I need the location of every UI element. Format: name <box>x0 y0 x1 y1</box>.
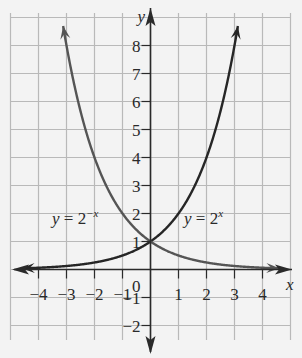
y-tick-label: 3 <box>132 177 141 196</box>
x-tick-label: 4 <box>258 285 267 304</box>
curve-2-pow-neg-x <box>63 26 279 268</box>
y-tick-label: 8 <box>132 37 141 56</box>
y-tick-label: 2 <box>132 205 141 224</box>
origin-label: 0 <box>132 277 141 296</box>
curve-2-pow-x <box>22 26 238 268</box>
y-tick-label: −2 <box>122 317 140 336</box>
y-tick-label: 6 <box>132 93 141 112</box>
y-tick-label: 1 <box>132 233 141 252</box>
y-tick-label: 5 <box>132 121 141 140</box>
y-axis-label: y <box>136 7 146 26</box>
series-label-2-pow-x: y = 2x <box>182 207 223 228</box>
y-tick-label: 7 <box>132 65 141 84</box>
axes <box>12 8 292 354</box>
x-tick-label: −3 <box>57 285 75 304</box>
x-tick-label: −2 <box>85 285 103 304</box>
x-tick-label: 3 <box>230 285 239 304</box>
x-tick-label: 1 <box>174 285 183 304</box>
series-label-2-pow-neg-x: y = 2−x <box>50 207 99 228</box>
x-tick-label: 2 <box>202 285 211 304</box>
x-axis-label: x <box>285 275 294 294</box>
x-tick-label: −4 <box>29 285 48 304</box>
exponential-functions-chart: −4−3−2−1123487654321−1−20xyy = 2xy = 2−x <box>0 0 302 358</box>
y-tick-label: 4 <box>132 149 141 168</box>
